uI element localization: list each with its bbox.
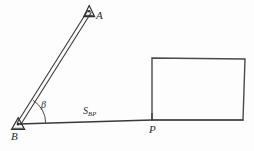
- label-angle-beta: β: [41, 100, 46, 110]
- label-baseline-sbp: SBP: [83, 106, 96, 117]
- label-point-a: A: [96, 10, 103, 21]
- label-point-b: B: [11, 131, 18, 142]
- survey-diagram: A B P β SBP: [0, 0, 254, 151]
- baseline-b-to-p: [18, 120, 243, 124]
- baseline-subscript: BP: [88, 110, 96, 117]
- diagram-canvas: [0, 0, 254, 151]
- building-outline-rectangle: [152, 58, 245, 120]
- label-point-p: P: [149, 124, 156, 135]
- survey-pole-double-line: [17, 10, 91, 125]
